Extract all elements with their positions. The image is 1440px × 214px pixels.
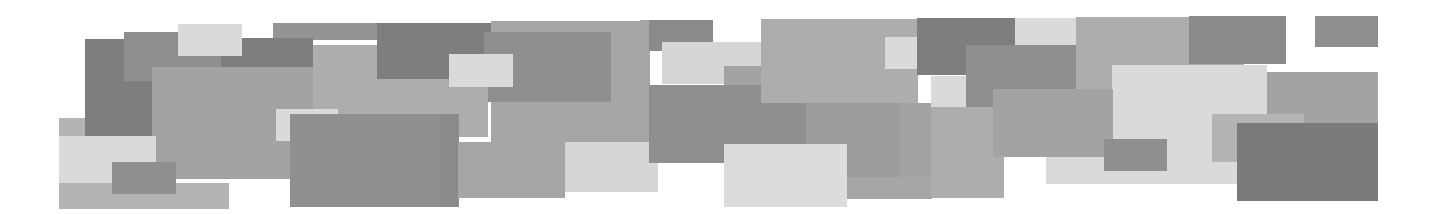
gray-rectangle-shape xyxy=(178,24,242,56)
gray-rectangle-shape xyxy=(458,85,488,137)
gray-rectangle-shape xyxy=(565,142,658,192)
gray-rectangle-shape xyxy=(1189,16,1286,64)
gray-rectangle-shape xyxy=(900,103,931,177)
gray-rectangle-shape xyxy=(724,144,847,207)
gray-rectangle-shape xyxy=(449,54,513,87)
gray-rectangle-shape xyxy=(458,142,565,198)
gray-rectangle-shape xyxy=(1015,18,1076,45)
gray-rectangle-shape xyxy=(640,20,649,90)
gray-rectangle-shape xyxy=(1104,139,1167,171)
decorative-banner xyxy=(0,0,1440,214)
gray-rectangle-shape xyxy=(440,114,458,207)
gray-rectangle-shape xyxy=(931,76,966,107)
gray-rectangle-shape xyxy=(993,89,1113,157)
gray-rectangle-shape xyxy=(290,114,459,207)
gray-rectangle-shape xyxy=(1315,16,1378,47)
gray-rectangle-shape xyxy=(847,177,932,199)
gray-rectangle-shape xyxy=(1237,123,1378,201)
gray-rectangle-shape xyxy=(112,162,176,194)
